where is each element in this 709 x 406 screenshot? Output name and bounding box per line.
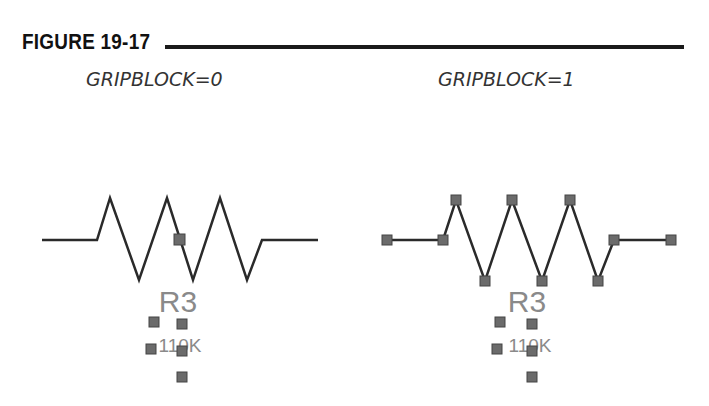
resistor-gripblock-0[interactable]: R3 110K: [42, 198, 318, 382]
grip-insertion[interactable]: [174, 234, 185, 245]
resistor-diagrams: R3 110K R3 110K: [0, 0, 709, 406]
ref-label: R3: [159, 285, 197, 318]
ref-label: R3: [508, 285, 546, 318]
resistor-gripblock-1[interactable]: R3 110K: [382, 195, 676, 382]
